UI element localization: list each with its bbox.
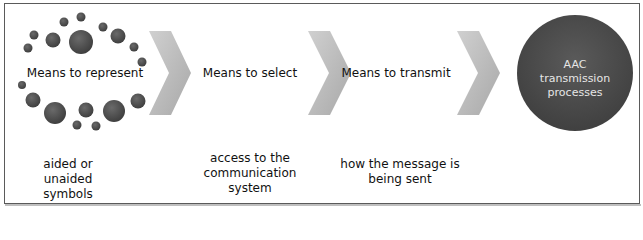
step-label-represent: Means to represent [27,66,143,81]
step-description-represent: aided or unaided symbols [18,157,118,202]
step-description-select: access to the communication system [200,151,300,196]
result-label: AAC transmission processes [530,58,620,100]
chevron-right-icon [149,31,191,115]
step-description-transmit: how the message is being sent [335,157,465,187]
step-label-select: Means to select [203,66,297,81]
step-label-transmit: Means to transmit [341,66,450,81]
chevron-right-icon [457,31,500,115]
